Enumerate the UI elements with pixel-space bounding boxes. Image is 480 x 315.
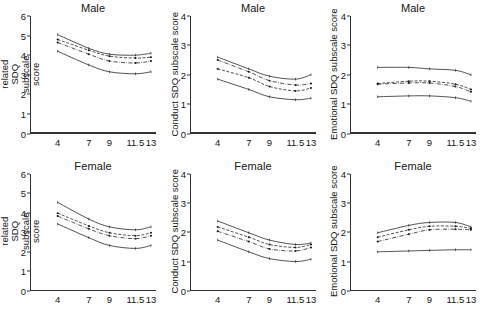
data-point-tick (455, 69, 456, 72)
data-point-tick (377, 231, 378, 234)
data-point-tick (455, 96, 456, 99)
data-point-tick (295, 260, 296, 263)
data-point-tick (408, 224, 409, 227)
data-point-tick (109, 71, 110, 74)
y-tick-label: 1 (181, 99, 186, 110)
series-line-lower-ci (378, 249, 471, 251)
data-point (108, 55, 110, 57)
data-point (88, 49, 90, 51)
series-line-lower-ci (378, 96, 471, 101)
data-point-tick (88, 217, 89, 220)
data-point-tick (151, 71, 152, 74)
panel-conduct-male: MaleConduct SDQ subscale score0123447911… (160, 0, 320, 158)
data-point (248, 236, 250, 238)
data-point-tick (408, 95, 409, 98)
data-point-tick (429, 221, 430, 224)
data-point (268, 243, 270, 245)
x-tick-label: 7 (246, 294, 251, 305)
data-point-tick (269, 238, 270, 241)
x-tick-label: 9 (267, 137, 272, 148)
y-tick-label: 3 (181, 197, 186, 208)
data-point (134, 57, 136, 59)
data-point-tick (217, 56, 218, 59)
x-tick-label: 7 (86, 294, 91, 305)
y-tick-label: 1 (341, 99, 346, 110)
panel-emotional-female: FemaleEmotional SDQ subscale score012344… (320, 158, 480, 315)
plot-area: 012345647911.513 (30, 174, 156, 292)
data-point-tick (88, 64, 89, 67)
y-axis-ticks: 01234 (334, 16, 350, 134)
data-point (294, 90, 296, 92)
data-point (134, 234, 136, 236)
data-point-tick (269, 257, 270, 260)
series-line-upper-ci (58, 202, 151, 229)
data-point (88, 227, 90, 229)
x-tick-label: 4 (55, 294, 60, 305)
series-container (350, 174, 476, 292)
data-point-tick (295, 243, 296, 246)
y-tick-label: 4 (21, 50, 26, 61)
y-tick-label: 4 (181, 168, 186, 179)
y-tick-label: 3 (341, 197, 346, 208)
data-point-tick (471, 248, 472, 251)
data-point-tick (429, 249, 430, 252)
x-axis-ticks: 47911.513 (190, 135, 316, 149)
y-tick-label: 5 (21, 188, 26, 199)
x-tick-label: 13 (466, 137, 477, 148)
y-axis-ticks: 01234 (174, 16, 190, 134)
data-point (454, 83, 456, 85)
y-tick-label: 2 (341, 227, 346, 238)
data-point (150, 234, 152, 236)
y-tick-label: 3 (341, 40, 346, 51)
data-point-tick (471, 73, 472, 76)
data-point (268, 86, 270, 88)
data-point-tick (151, 52, 152, 55)
data-point-tick (57, 50, 58, 53)
panel-conduct-female: FemaleConduct SDQ subscale score01234479… (160, 158, 320, 315)
x-tick-label: 11.5 (447, 294, 465, 305)
x-axis-ticks: 47911.513 (30, 292, 156, 306)
data-point (310, 87, 312, 89)
y-tick-label: 1 (21, 108, 26, 119)
data-point-tick (295, 98, 296, 101)
y-axis-ticks: 01234 (334, 174, 350, 292)
data-point-tick (269, 95, 270, 98)
data-point (294, 246, 296, 248)
x-tick-label: 4 (55, 137, 60, 148)
data-point-tick (269, 75, 270, 78)
plot-area: 0123447911.513 (350, 16, 476, 134)
y-tick-label: 6 (21, 11, 26, 22)
data-point-tick (311, 97, 312, 100)
x-tick-label: 11.5 (127, 294, 145, 305)
data-point-tick (217, 78, 218, 81)
y-tick-label: 3 (21, 69, 26, 80)
data-point-tick (408, 249, 409, 252)
series-container (30, 174, 156, 292)
panel-adhd-male: MaleADHD-related SDQ subscale score01234… (0, 0, 160, 158)
y-tick-label: 0 (21, 286, 26, 297)
data-point (294, 84, 296, 86)
x-tick-label: 9 (107, 137, 112, 148)
data-point (217, 68, 219, 70)
data-point-tick (248, 231, 249, 234)
y-tick-label: 2 (181, 227, 186, 238)
series-line-lower-ci (218, 79, 311, 100)
series-line-upper-ci (218, 57, 311, 79)
data-point (408, 228, 410, 230)
data-point-tick (109, 244, 110, 247)
data-point (377, 240, 379, 242)
x-tick-label: 7 (406, 294, 411, 305)
plot-area: 012345647911.513 (30, 16, 156, 134)
x-tick-label: 11.5 (287, 294, 305, 305)
y-tick-label: 0 (21, 128, 26, 139)
data-point (217, 59, 219, 61)
data-point (150, 231, 152, 233)
data-point (428, 80, 430, 82)
series-line-series-c (378, 229, 471, 241)
data-point-tick (135, 247, 136, 250)
series-container (190, 16, 316, 134)
y-tick-label: 4 (341, 11, 346, 22)
x-tick-label: 13 (146, 294, 157, 305)
data-point (217, 230, 219, 232)
data-point (57, 39, 59, 41)
